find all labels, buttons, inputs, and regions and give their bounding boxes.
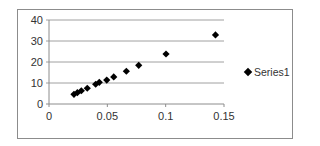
- y-tick-label: 20: [31, 56, 43, 68]
- x-tick-label: 0: [46, 110, 52, 122]
- x-tick-label: 0.15: [213, 110, 234, 122]
- diamond-marker-icon: [244, 68, 252, 76]
- x-tick-label: 0.05: [97, 110, 118, 122]
- x-tick-label: 0.1: [158, 110, 173, 122]
- legend-label: Series1: [254, 66, 290, 78]
- y-tick-label: 10: [31, 77, 43, 89]
- data-point: [135, 62, 142, 69]
- data-point: [110, 73, 117, 80]
- data-point: [212, 31, 219, 38]
- data-point: [123, 68, 130, 75]
- data-point: [162, 50, 169, 57]
- y-tick-label: 40: [31, 14, 43, 26]
- y-tick-label: 30: [31, 35, 43, 47]
- y-tick-label: 0: [37, 98, 43, 110]
- legend: Series1: [245, 66, 290, 78]
